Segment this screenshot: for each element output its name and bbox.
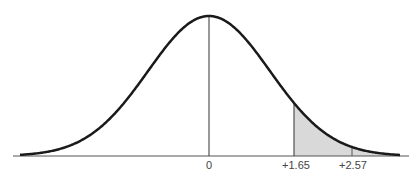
tick-label-2-57: +2.57 <box>339 159 367 171</box>
tick-label-zero: 0 <box>206 159 212 171</box>
tick-label-1-65: +1.65 <box>282 159 310 171</box>
normal-curve-chart <box>0 0 419 174</box>
shaded-tail-region <box>294 103 400 156</box>
normal-curve <box>20 16 400 155</box>
